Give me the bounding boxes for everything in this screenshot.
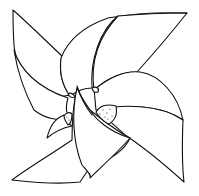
center-piece-upper-right (92, 87, 99, 92)
blade-top-left (13, 10, 70, 97)
pinwheel-drawing (0, 0, 199, 196)
